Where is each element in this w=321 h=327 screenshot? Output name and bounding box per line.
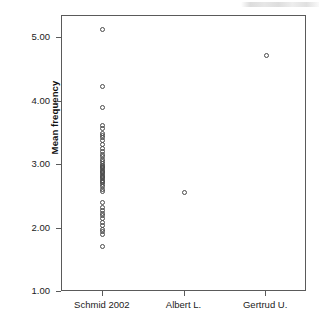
x-tick-mark [265,291,266,296]
y-tick-mark [56,291,61,292]
data-point [264,53,269,58]
y-tick-label: 1.00 [16,286,50,296]
x-tick-label-3: Gertrud U. [215,299,315,310]
data-point [100,27,105,32]
data-point [100,84,105,89]
y-tick-label: 2.00 [16,223,50,233]
y-tick-label: 4.00 [16,96,50,106]
data-point [100,232,105,237]
y-tick-label: 3.00 [16,159,50,169]
y-axis-title: Mean frequency [49,58,60,178]
data-point [100,189,105,194]
data-point [100,105,105,110]
scatter-plot-figure: Mean frequency 1.002.003.004.005.00 Schm… [0,0,321,327]
x-tick-mark [102,291,103,296]
plot-area [61,15,306,291]
y-tick-label: 5.00 [16,32,50,42]
scan-artifact [241,2,319,7]
data-point [100,244,105,249]
x-tick-mark [184,291,185,296]
data-point [182,190,187,195]
